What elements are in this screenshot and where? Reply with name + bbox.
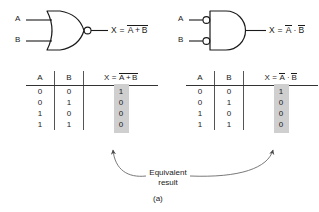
header-x-lhs: X [104, 73, 109, 82]
nor-input-b-label: B [15, 36, 20, 44]
cell-x: 0 [244, 97, 319, 108]
cell-x: 0 [244, 119, 319, 130]
cell-x: 0 [84, 108, 159, 119]
cell-x-value: 0 [114, 97, 129, 108]
nor-gate-body [47, 11, 84, 50]
table-header-row: A B X = A+B [26, 71, 158, 86]
cell-b: 1 [215, 97, 244, 108]
cell-x-value: 1 [274, 86, 289, 97]
cell-b: 1 [55, 97, 84, 108]
header-b: B [215, 71, 244, 86]
header-x-equals: = [272, 73, 277, 82]
cell-a: 0 [26, 97, 55, 108]
header-a: A [26, 71, 55, 86]
header-x-overbar-group: A+B [119, 73, 138, 82]
cell-a: 1 [26, 119, 55, 130]
cell-x-value: 0 [114, 119, 129, 130]
negative-and-output-expression: X = A·B [269, 25, 305, 35]
nor-gate-graphic [26, 11, 108, 50]
cell-a: 1 [186, 119, 215, 130]
cell-x-value: 1 [114, 86, 129, 97]
table-row: 1 1 0 [186, 119, 318, 130]
cell-x: 0 [84, 119, 159, 130]
nand-input-a-bubble-icon [203, 17, 210, 24]
cell-a: 1 [26, 108, 55, 119]
nand-expr-term-b-bar: B [298, 25, 305, 35]
cell-b: 1 [55, 119, 84, 130]
nor-expr-term-b: B [142, 25, 148, 35]
header-b: B [55, 71, 84, 86]
nand-expr-lhs: X [269, 25, 275, 35]
negative-and-gate-graphic [189, 11, 266, 50]
table-header-row: A B X = A·B [186, 71, 318, 86]
cell-x-value: 0 [274, 119, 289, 130]
negative-and-truth-table: A B X = A·B 0 0 1 0 1 0 [186, 71, 318, 130]
cell-x-value: 0 [274, 108, 289, 119]
table-row: 1 0 0 [186, 108, 318, 119]
equivalent-result-annotation: Equivalent result [144, 168, 192, 188]
nor-truth-table: A B X = A+B 0 0 1 0 1 [26, 71, 158, 130]
cell-x-value: 0 [274, 97, 289, 108]
cell-a: 1 [186, 108, 215, 119]
header-x: X = A·B [244, 71, 319, 86]
cell-a: 0 [186, 97, 215, 108]
nor-expr-term-a: A [128, 25, 134, 35]
nor-output-expression: X = A+B [111, 25, 148, 35]
left-equivalence-arrow [113, 150, 146, 176]
header-a: A [186, 71, 215, 86]
table-row: 0 0 1 [186, 86, 318, 98]
cell-x: 1 [84, 86, 159, 98]
nor-expr-equals: = [119, 25, 124, 35]
header-x-equals: = [112, 73, 117, 82]
table-row: 0 0 1 [26, 86, 158, 98]
table-row: 0 1 0 [186, 97, 318, 108]
cell-a: 0 [26, 86, 55, 98]
table-row: 1 1 0 [26, 119, 158, 130]
nand-input-b-label: B [178, 36, 183, 44]
nor-expr-lhs: X [111, 25, 117, 35]
equivalence-arrows-layer [113, 150, 273, 176]
cell-x: 0 [84, 97, 159, 108]
nor-input-a-label: A [15, 15, 20, 23]
header-x-lhs: X [265, 73, 270, 82]
table-row: 1 0 0 [26, 108, 158, 119]
cell-x: 1 [244, 86, 319, 98]
cell-b: 1 [215, 119, 244, 130]
cell-b: 0 [215, 86, 244, 98]
cell-b: 0 [55, 108, 84, 119]
nand-expr-equals: = [277, 25, 282, 35]
table-row: 0 1 0 [26, 97, 158, 108]
nor-expr-operator: + [134, 25, 142, 35]
right-equivalence-arrow [190, 150, 273, 176]
cell-a: 0 [186, 86, 215, 98]
cell-b: 0 [55, 86, 84, 98]
annotation-line-2: result [144, 178, 192, 188]
header-x-term-b-bar: B [291, 73, 297, 82]
cell-b: 0 [215, 108, 244, 119]
cell-x-value: 0 [114, 108, 129, 119]
nand-input-a-label: A [178, 15, 183, 23]
figure-caption: (a) [153, 194, 163, 203]
cell-x: 0 [244, 108, 319, 119]
header-x: X = A+B [84, 71, 159, 86]
nor-expr-overbar-group: A+B [127, 25, 148, 35]
demorgan-equivalence-figure: A B X = A+B A B X = A·B A B X = A+B [0, 0, 318, 212]
nand-input-b-bubble-icon [203, 38, 210, 45]
nor-output-bubble-icon [84, 27, 91, 34]
negative-and-gate-body [210, 11, 246, 50]
header-x-operator: + [124, 73, 132, 82]
annotation-line-1: Equivalent [144, 168, 192, 178]
header-x-term-b: B [132, 73, 137, 82]
